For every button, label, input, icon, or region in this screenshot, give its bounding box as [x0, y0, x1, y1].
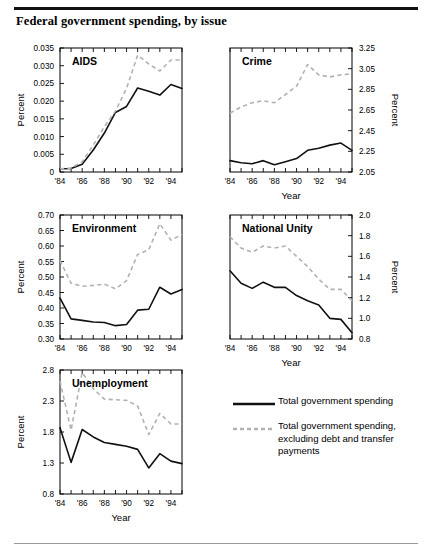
y-tick-label: 0.70: [38, 211, 54, 220]
x-axis-title: Year: [111, 512, 130, 523]
y-tick-label: 0.005: [34, 150, 55, 159]
x-tick-label: '90: [291, 344, 302, 353]
y-tick-label: 2.25: [359, 147, 375, 156]
x-tick-label: '94: [166, 344, 177, 353]
series-solid: [60, 84, 182, 168]
y-tick-label: 0.020: [34, 97, 55, 106]
series-dashed: [60, 55, 182, 169]
y-tick-label: 0.30: [38, 335, 54, 344]
y-tick-label: 0.35: [38, 320, 54, 329]
legend-item-excluding-debt: Total government spending, excluding deb…: [232, 420, 422, 457]
panel-title: AIDS: [72, 55, 97, 67]
panel-title: Crime: [242, 55, 272, 67]
panel-title: Unemployment: [72, 377, 148, 389]
chart-panel-aids: '84'86'88'90'92'9400.0050.0100.0150.0200…: [14, 38, 214, 198]
panel-title: National Unity: [242, 222, 313, 234]
x-tick-label: '86: [247, 177, 258, 186]
y-tick-label: 1.2: [359, 294, 371, 303]
x-tick-label: '94: [336, 344, 347, 353]
chart-panel-unemployment: '84'86'88'90'92'940.81.31.82.32.8Unemplo…: [14, 360, 214, 520]
y-tick-label: 2.3: [43, 397, 55, 406]
x-tick-label: '84: [55, 177, 66, 186]
y-tick-label: 0.035: [34, 44, 55, 53]
x-tick-label: '86: [77, 344, 88, 353]
x-tick-label: '86: [77, 499, 88, 508]
y-tick-label: 0.8: [359, 335, 371, 344]
panel-aids: '84'86'88'90'92'9400.0050.0100.0150.0200…: [14, 38, 214, 198]
y-tick-label: 0.55: [38, 258, 54, 267]
chart-panel-national-unity: '84'86'88'90'92'940.81.01.21.41.61.82.0N…: [218, 205, 418, 365]
x-tick-label: '90: [121, 177, 132, 186]
x-axis-title: Year: [281, 357, 300, 368]
dashed-line-key: [232, 420, 278, 432]
series-solid: [60, 428, 182, 468]
y-axis-title: Percent: [15, 93, 26, 126]
panel-environment: '84'86'88'90'92'940.300.350.400.450.500.…: [14, 205, 214, 365]
y-tick-label: 0: [49, 168, 54, 177]
y-tick-label: 0.8: [43, 490, 55, 499]
x-tick-label: '92: [313, 344, 324, 353]
x-tick-label: '94: [166, 177, 177, 186]
legend: Total government spending Total governme…: [232, 395, 422, 471]
y-tick-label: 2.0: [359, 211, 371, 220]
y-tick-label: 1.8: [43, 428, 55, 437]
y-axis-title: Percent: [390, 94, 401, 127]
y-tick-label: 2.45: [359, 127, 375, 136]
series-solid: [60, 287, 182, 325]
y-tick-label: 2.05: [359, 168, 375, 177]
y-tick-label: 3.05: [359, 65, 375, 74]
y-tick-label: 0.45: [38, 289, 54, 298]
x-tick-label: '86: [247, 344, 258, 353]
y-tick-label: 1.6: [359, 252, 371, 261]
x-tick-label: '92: [143, 344, 154, 353]
x-tick-label: '88: [269, 344, 280, 353]
y-tick-label: 0.030: [34, 62, 55, 71]
x-tick-label: '90: [121, 344, 132, 353]
y-tick-label: 0.65: [38, 227, 54, 236]
y-tick-label: 0.025: [34, 79, 55, 88]
y-tick-label: 2.8: [43, 366, 55, 375]
y-tick-label: 0.50: [38, 273, 54, 282]
series-dashed: [230, 65, 352, 114]
series-solid: [230, 271, 352, 333]
x-tick-label: '90: [121, 499, 132, 508]
y-axis-title: Percent: [15, 260, 26, 293]
x-tick-label: '88: [99, 344, 110, 353]
x-tick-label: '90: [291, 177, 302, 186]
y-tick-label: 1.4: [359, 273, 371, 282]
x-tick-label: '88: [99, 177, 110, 186]
y-tick-label: 3.25: [359, 44, 375, 53]
legend-label-excluding-debt: Total government spending, excluding deb…: [278, 420, 422, 457]
x-tick-label: '86: [77, 177, 88, 186]
x-tick-label: '88: [269, 177, 280, 186]
panel-crime: '84'86'88'90'92'942.052.252.452.652.853.…: [218, 38, 418, 198]
panel-title: Environment: [72, 222, 137, 234]
x-tick-label: '84: [55, 499, 66, 508]
solid-line-key: [232, 395, 278, 407]
figure-title: Federal government spending, by issue: [16, 14, 227, 29]
bottom-rule: [14, 543, 418, 544]
y-tick-label: 2.65: [359, 106, 375, 115]
x-tick-label: '84: [225, 177, 236, 186]
panel-national-unity: '84'86'88'90'92'940.81.01.21.41.61.82.0N…: [218, 205, 418, 365]
panel-unemployment: '84'86'88'90'92'940.81.31.82.32.8Unemplo…: [14, 360, 214, 520]
x-tick-label: '92: [143, 177, 154, 186]
chart-panel-environment: '84'86'88'90'92'940.300.350.400.450.500.…: [14, 205, 214, 365]
x-tick-label: '94: [336, 177, 347, 186]
x-tick-label: '84: [225, 344, 236, 353]
x-tick-label: '84: [55, 344, 66, 353]
y-tick-label: 1.8: [359, 232, 371, 241]
x-tick-label: '88: [99, 499, 110, 508]
x-tick-label: '92: [143, 499, 154, 508]
y-axis-title: Percent: [390, 261, 401, 294]
y-tick-label: 1.0: [359, 314, 371, 323]
y-tick-label: 0.010: [34, 133, 55, 142]
y-tick-label: 0.015: [34, 115, 55, 124]
chart-panel-crime: '84'86'88'90'92'942.052.252.452.652.853.…: [218, 38, 418, 198]
x-axis-title: Year: [281, 190, 300, 201]
y-tick-label: 2.85: [359, 85, 375, 94]
y-tick-label: 0.40: [38, 304, 54, 313]
legend-item-total-spending: Total government spending: [232, 395, 422, 407]
y-axis-title: Percent: [15, 415, 26, 448]
y-tick-label: 1.3: [43, 459, 55, 468]
